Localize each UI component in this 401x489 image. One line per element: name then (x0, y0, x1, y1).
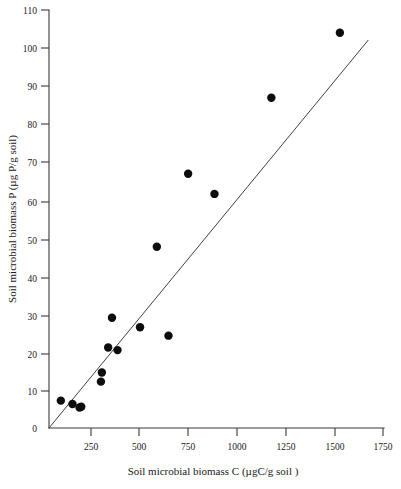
x-axis-tick-labels: 250 500 750 1000 1250 1500 1750 (84, 442, 393, 452)
y-tick-label-110: 110 (23, 6, 37, 16)
x-tick-label-1750: 1750 (374, 442, 393, 452)
y-tick-label-0: 0 (32, 424, 37, 434)
y-tick-label-30: 30 (28, 312, 38, 322)
y-tick-label-80: 80 (28, 120, 38, 130)
data-point (98, 368, 106, 376)
regression-line (49, 40, 368, 428)
y-tick-label-100: 100 (23, 44, 38, 54)
scatter-plot-figure: 110 100 90 80 70 60 50 40 30 20 10 0 250 (0, 0, 401, 489)
data-point (267, 94, 275, 102)
data-point (164, 331, 172, 339)
data-point (57, 396, 65, 404)
data-point (210, 190, 218, 198)
data-points-group (57, 29, 344, 412)
data-point (136, 323, 144, 331)
y-axis-title: Soil microbial biomass P (µg P/g soil) (6, 135, 19, 303)
x-tick-label-1000: 1000 (228, 442, 247, 452)
y-tick-label-50: 50 (28, 236, 38, 246)
y-tick-label-40: 40 (28, 274, 38, 284)
data-point (153, 243, 161, 251)
data-point (77, 403, 85, 411)
data-point (97, 377, 105, 385)
x-axis-ticks (91, 428, 383, 436)
plot-canvas: 110 100 90 80 70 60 50 40 30 20 10 0 250 (0, 0, 401, 489)
data-point (108, 314, 116, 322)
x-tick-label-1250: 1250 (277, 442, 296, 452)
x-axis-title: Soil microbial biomass C (µgC/g soil ) (128, 465, 299, 478)
y-axis-ticks (41, 10, 49, 391)
y-tick-label-90: 90 (28, 82, 38, 92)
x-tick-label-250: 250 (84, 442, 99, 452)
y-tick-label-20: 20 (28, 350, 38, 360)
data-point (184, 170, 192, 178)
data-point (113, 346, 121, 354)
y-tick-label-70: 70 (28, 158, 38, 168)
x-tick-label-500: 500 (132, 442, 147, 452)
y-axis-tick-labels: 110 100 90 80 70 60 50 40 30 20 10 0 (23, 6, 38, 434)
x-tick-label-750: 750 (181, 442, 196, 452)
y-tick-label-10: 10 (28, 387, 38, 397)
data-point (336, 29, 344, 37)
y-tick-label-60: 60 (28, 198, 38, 208)
x-tick-label-1500: 1500 (326, 442, 345, 452)
data-point (104, 343, 112, 351)
